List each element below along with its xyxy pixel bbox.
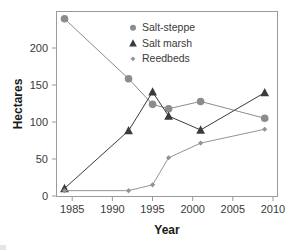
data-point	[125, 75, 133, 83]
line-chart-svg: 0 50 100 150 200 1985 1990 1995 2000 200…	[0, 0, 299, 250]
data-point	[197, 98, 205, 106]
y-tick-label-100: 100	[30, 116, 48, 128]
x-tick-label-2010: 2010	[261, 203, 285, 215]
image-edge-artifact	[0, 245, 6, 250]
x-tick-label-1985: 1985	[60, 203, 84, 215]
legend-label-salt-steppe: Salt-steppe	[142, 21, 195, 33]
x-tick-label-1990: 1990	[100, 203, 124, 215]
legend-label-salt-marsh: Salt marsh	[142, 37, 192, 49]
y-tick-label-200: 200	[30, 42, 48, 54]
y-tick-label-150: 150	[30, 79, 48, 91]
x-tick-label-1995: 1995	[140, 203, 164, 215]
x-tick-label-2000: 2000	[180, 203, 204, 215]
chart-figure: 0 50 100 150 200 1985 1990 1995 2000 200…	[0, 0, 299, 250]
data-point	[261, 114, 269, 122]
y-axis-title: Hectares	[11, 78, 25, 129]
circle-marker-icon	[130, 25, 136, 31]
y-tick-label-50: 50	[36, 153, 48, 165]
x-axis-title: Year	[154, 223, 180, 237]
data-point	[149, 101, 157, 109]
legend-label-reedbeds: Reedbeds	[142, 52, 190, 64]
y-tick-label-0: 0	[42, 190, 48, 202]
data-point	[61, 15, 69, 23]
x-tick-label-2005: 2005	[221, 203, 245, 215]
